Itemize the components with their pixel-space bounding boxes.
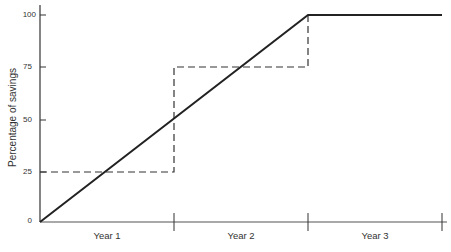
- series-linear-solid: [40, 15, 442, 222]
- y-axis-title: Percentage of savings: [7, 68, 18, 168]
- x-category-year-3: Year 3: [308, 230, 442, 241]
- series-stepped-dashed: [40, 15, 308, 172]
- y-tick-label-100: 100: [14, 10, 36, 19]
- x-category-year-1: Year 1: [40, 230, 174, 241]
- x-category-year-2: Year 2: [174, 230, 308, 241]
- y-tick-label-0: 0: [10, 216, 32, 225]
- chart-plot: [0, 0, 451, 252]
- y-ticks: [40, 15, 46, 172]
- y-tick-label-25: 25: [10, 167, 32, 176]
